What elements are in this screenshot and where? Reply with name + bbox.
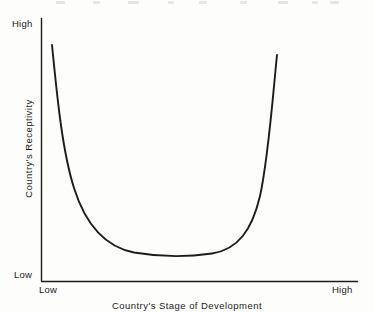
- y-axis-title: Country's Receptivity: [23, 69, 34, 229]
- x-axis-title: Country's Stage of Development: [0, 300, 374, 311]
- y-axis-low-tick-label: Low: [14, 270, 32, 280]
- plot-area: [0, 0, 374, 313]
- receptivity-curve: [52, 45, 277, 256]
- chart-screenshot: High Low Low High Country's Stage of Dev…: [0, 0, 374, 313]
- x-axis-low-tick-label: Low: [39, 285, 57, 295]
- y-axis-high-tick-label: High: [12, 19, 33, 29]
- x-axis-high-tick-label: High: [332, 285, 353, 295]
